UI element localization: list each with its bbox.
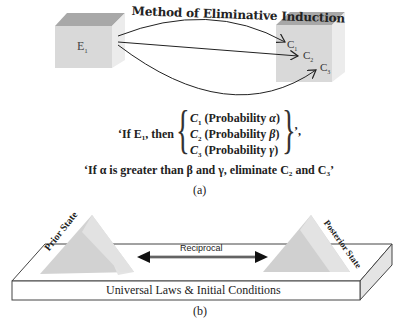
rule-suffix: ’, (294, 124, 301, 139)
cond3-text: (Probability (202, 143, 270, 157)
arrow-to-c2 (118, 42, 298, 56)
cond1-greek: α (269, 111, 276, 125)
cond1-text: (Probability (202, 111, 270, 125)
cond1-c: C (190, 111, 198, 125)
condition-line-1: C1 (Probability α) (190, 111, 280, 127)
reciprocal-label: Reciprocal (180, 243, 223, 253)
arrow-to-c1 (118, 19, 285, 42)
c2-sub: 2 (310, 57, 313, 63)
cond1-close: ) (276, 111, 280, 125)
cond3-c: C (190, 143, 198, 157)
caption-a: (a) (193, 183, 206, 198)
base-label: Universal Laws & Initial Conditions (106, 282, 281, 298)
cond2-close: ) (275, 127, 279, 141)
c2-label: C2 (303, 49, 313, 63)
left-brace: { (176, 104, 190, 156)
rule-prefix: ‘If E₁, then (118, 127, 174, 142)
e-subscript: 1 (84, 47, 88, 55)
condition-line-2: C2 (Probability β) (190, 127, 279, 143)
caption-b: (b) (193, 304, 207, 319)
cond2-text: (Probability (202, 127, 270, 141)
condition-line-3: C3 (Probability γ) (190, 143, 278, 159)
c3-label: C3 (320, 61, 330, 75)
c1-label: C1 (287, 38, 297, 52)
elimination-rule: ‘If α is greater than β and γ, eliminate… (84, 163, 334, 178)
cond2-c: C (190, 127, 198, 141)
c3-sub: 3 (327, 69, 330, 75)
c1-sub: 1 (294, 46, 297, 52)
left-box-label: E1 (77, 39, 88, 55)
left-cube-e1 (55, 13, 125, 68)
cond3-close: ) (274, 143, 278, 157)
